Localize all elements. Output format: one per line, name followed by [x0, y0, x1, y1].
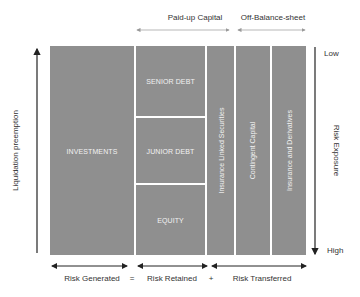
- senior-debt-block: SENIOR DEBT: [136, 46, 205, 116]
- insurance-linked-securities-block: Insurance Linked Securities: [207, 46, 234, 255]
- insurance-derivatives-block: Insurance and Derivatives: [272, 46, 306, 255]
- contingent-capital-block: Contingent Capital: [236, 46, 270, 255]
- risk-generated-label: Risk Generated: [50, 274, 134, 283]
- risk-low-label: Low: [324, 49, 339, 58]
- equity-block: EQUITY: [136, 185, 205, 255]
- investments-block: INVESTMENTS: [50, 46, 134, 255]
- risk-exposure-label: Risk Exposure: [322, 80, 352, 220]
- risk-high-label: High: [327, 246, 343, 255]
- risk-transferred-label: Risk Transferred: [220, 274, 304, 283]
- liquidation-preemption-label: Liquidation preemption: [0, 45, 30, 255]
- junior-debt-block: JUNIOR DEBT: [136, 118, 205, 183]
- risk-retained-label: Risk Retained: [136, 274, 208, 283]
- plus-sign: +: [205, 274, 217, 283]
